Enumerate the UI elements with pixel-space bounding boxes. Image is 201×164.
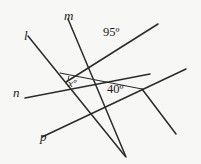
label-line-l: l <box>24 29 28 42</box>
label-angle-95: 95º <box>103 26 119 39</box>
diagram-canvas <box>0 0 201 164</box>
label-angle-40: 40º <box>107 83 123 96</box>
label-line-m: m <box>64 9 73 22</box>
label-line-n: n <box>13 86 20 99</box>
label-line-p: p <box>40 130 47 143</box>
geometry-diagram: l m n p 95º 40º xº <box>0 0 201 164</box>
lower-right-ray <box>142 89 176 134</box>
label-angle-x: xº <box>68 78 76 89</box>
